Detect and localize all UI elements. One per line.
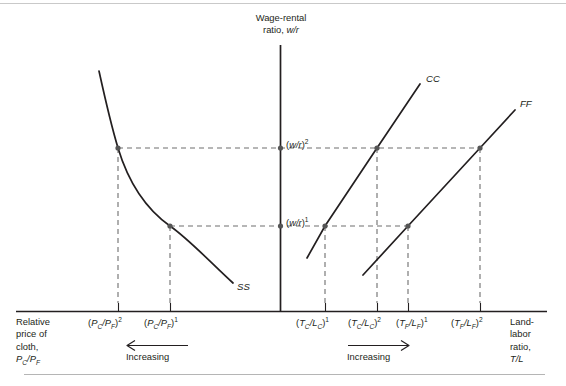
vertical-axis-title-line2-prefix: ratio, (263, 24, 286, 35)
curve-label-cc: CC (426, 73, 440, 84)
increasing-label-left: Increasing (126, 351, 169, 362)
left-tick-densub-2: F (111, 323, 115, 330)
dot-cc-wr1 (322, 223, 327, 228)
vertical-tick-base-wr1: w/r (289, 217, 302, 228)
right-tick-label-tflf1: (TF/LF)1 (396, 316, 428, 330)
vertical-axis-title-variable: w/r (286, 24, 299, 35)
right-tick-densub-1: C (369, 323, 374, 330)
left-tick-label-pcpf1: (PC/PF)1 (144, 316, 178, 330)
curve-label-ss: SS (237, 281, 250, 292)
right-tick-label-tflf2: (TF/LF)2 (451, 316, 483, 330)
vertical-tick-label-wr1: (w/r)1 (286, 216, 308, 228)
dot-ss-wr2 (115, 145, 120, 150)
left-axis-title-ratio: PC/PF (16, 353, 40, 364)
dot-ss-wr1 (167, 223, 172, 228)
right-tick-densub-3: F (472, 323, 476, 330)
vertical-axis-title-line1: Wage-rental (256, 12, 307, 23)
right-tick-label-tclc1: (TC/LC)1 (296, 316, 329, 330)
right-axis-title-line1: Land- (510, 316, 534, 327)
right-axis-title: Land- labor ratio, T/L (510, 316, 534, 366)
right-tick-sup-0: 1 (325, 316, 329, 323)
left-tick-sup-2: 2 (118, 316, 122, 323)
right-axis-title-ratio: T/L (510, 353, 524, 364)
right-axis-title-line3: ratio, (510, 341, 531, 352)
right-tick-densub-2: F (417, 323, 421, 330)
right-tick-sup-2: 1 (424, 316, 428, 323)
vertical-axis-title: Wage-rental ratio, w/r (245, 12, 317, 37)
left-tick-sup-1: 1 (174, 316, 178, 323)
right-tick-densub-0: C (317, 323, 322, 330)
right-tick-sup-3: 2 (479, 316, 483, 323)
left-axis-title: Relative price of cloth, PC/PF (16, 316, 50, 370)
curve-ss (99, 71, 233, 283)
dot-cc-wr2 (374, 145, 379, 150)
right-tick-sup-1: 2 (377, 316, 381, 323)
vertical-tick-sup-wr1: 1 (305, 216, 309, 223)
figure-container: Wage-rental ratio, w/r (w/r)2 (w/r)1 SS … (0, 0, 566, 386)
dot-ff-wr2 (477, 145, 482, 150)
increasing-label-right: Increasing (347, 351, 390, 362)
arrow-increasing-left (127, 341, 188, 351)
right-tick-label-tclc2: (TC/LC)2 (348, 316, 381, 330)
left-tick-label-pcpf2: (PC/PF)2 (88, 316, 122, 330)
left-axis-ratio-densub: F (36, 359, 40, 366)
vertical-tick-base-wr2: w/r (289, 139, 302, 150)
left-axis-title-line1: Relative (16, 316, 50, 327)
curve-label-ff: FF (520, 98, 532, 109)
left-axis-title-line2: price of (16, 328, 47, 339)
vertical-tick-label-wr2: (w/r)2 (286, 138, 308, 150)
left-tick-densub-1: F (167, 323, 171, 330)
arrow-increasing-right (348, 341, 409, 351)
dot-axis-wr1 (278, 223, 283, 228)
dot-ff-wr1 (405, 223, 410, 228)
left-axis-title-line3: cloth, (16, 341, 38, 352)
right-axis-title-line2: labor (510, 328, 531, 339)
dot-axis-wr2 (278, 145, 283, 150)
vertical-tick-sup-wr2: 2 (305, 138, 309, 145)
